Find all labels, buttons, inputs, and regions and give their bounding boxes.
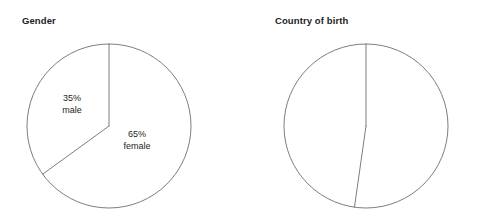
pie-slice-percent-female: 65% bbox=[106, 129, 168, 141]
pie-chart-country-of-birth: Country of birth 47% Belgium 53% other bbox=[247, 0, 494, 224]
pie-chart-gender: Gender 35% male 65% female bbox=[0, 0, 247, 224]
pie-graphic-gender bbox=[0, 0, 247, 224]
pie-slice-percent-male: 35% bbox=[44, 93, 100, 105]
pie-slice-category-male: male bbox=[44, 105, 100, 117]
pie-slice-label-female: 65% female bbox=[106, 129, 168, 152]
pie-slice-category-female: female bbox=[106, 141, 168, 153]
pie-slice-label-male: 35% male bbox=[44, 93, 100, 116]
pie-graphic-country bbox=[247, 0, 494, 224]
